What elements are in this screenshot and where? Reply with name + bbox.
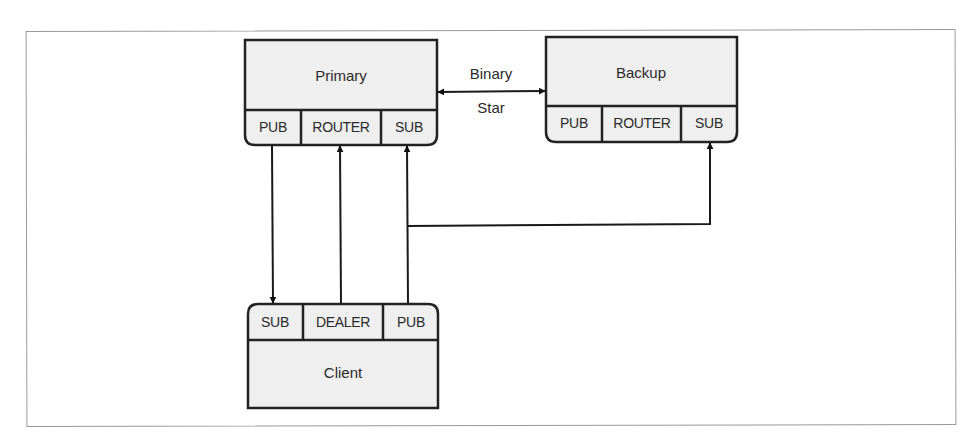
edge-client-dealer-to-primary-router: [340, 146, 341, 303]
backup-port-router: ROUTER: [613, 115, 671, 131]
backup-port-sub: SUB: [695, 115, 723, 131]
client-label: Client: [324, 364, 363, 381]
binary-star-label-line1: Binary: [470, 65, 513, 82]
edge-primary-pub-to-client-sub: [272, 146, 273, 303]
primary-node: Primary PUB ROUTER SUB: [245, 40, 437, 145]
backup-label: Backup: [616, 64, 666, 81]
edge-client-pub-to-primary-sub: [407, 146, 408, 303]
client-port-sub: SUB: [261, 314, 289, 330]
binary-star-diagram: Primary PUB ROUTER SUB Backup PUB ROUTER…: [0, 0, 980, 441]
binary-star-label-line2: Star: [477, 99, 505, 116]
primary-port-pub: PUB: [259, 119, 287, 135]
edge-client-pub-to-backup-sub: [408, 143, 710, 226]
client-node: SUB DEALER PUB Client: [248, 304, 438, 408]
primary-port-router: ROUTER: [312, 119, 370, 135]
client-port-pub: PUB: [397, 314, 425, 330]
primary-label: Primary: [315, 67, 367, 84]
edge-binary-star: [438, 91, 545, 92]
backup-port-pub: PUB: [560, 115, 588, 131]
client-port-dealer: DEALER: [316, 314, 370, 330]
backup-node: Backup PUB ROUTER SUB: [546, 37, 737, 142]
primary-port-sub: SUB: [395, 119, 423, 135]
